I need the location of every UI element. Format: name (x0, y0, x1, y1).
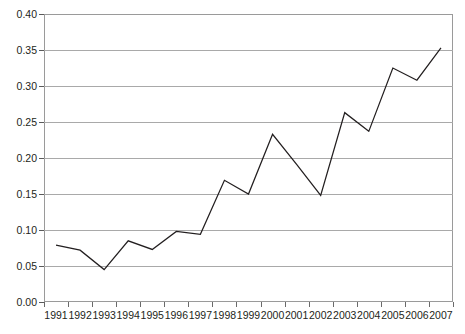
x-tick-label: 1993 (92, 310, 116, 321)
y-tick-label: 0.30 (0, 81, 37, 91)
x-tick-label: 2002 (309, 310, 333, 321)
y-tick-mark (39, 158, 44, 159)
x-tick-mark (164, 302, 165, 307)
y-tick-label: 0.00 (0, 297, 37, 307)
y-tick-mark (39, 50, 44, 51)
y-tick-label: 0.10 (0, 225, 37, 235)
data-series-layer (44, 14, 453, 302)
x-tick-label: 1992 (68, 310, 92, 321)
x-tick-label: 1991 (44, 310, 68, 321)
x-tick-mark (212, 302, 213, 307)
x-tick-mark (453, 302, 454, 307)
x-tick-mark (285, 302, 286, 307)
x-tick-mark (140, 302, 141, 307)
x-tick-label: 2001 (285, 310, 309, 321)
y-tick-label: 0.15 (0, 189, 37, 199)
x-tick-label: 2007 (429, 310, 453, 321)
y-tick-mark (39, 266, 44, 267)
x-tick-label: 2005 (381, 310, 405, 321)
x-tick-mark (333, 302, 334, 307)
line-chart: 0.000.050.100.150.200.250.300.350.40 199… (0, 0, 465, 334)
y-tick-mark (39, 86, 44, 87)
x-tick-mark (309, 302, 310, 307)
x-tick-mark (116, 302, 117, 307)
x-tick-label: 1994 (116, 310, 140, 321)
x-tick-mark (429, 302, 430, 307)
plot-area (44, 14, 453, 302)
x-tick-label: 2004 (357, 310, 381, 321)
x-tick-mark (188, 302, 189, 307)
x-tick-label: 1995 (140, 310, 164, 321)
x-tick-mark (405, 302, 406, 307)
y-tick-label: 0.20 (0, 153, 37, 163)
x-tick-mark (68, 302, 69, 307)
x-tick-label: 1996 (164, 310, 188, 321)
x-tick-mark (381, 302, 382, 307)
x-tick-mark (236, 302, 237, 307)
x-tick-label: 1999 (236, 310, 260, 321)
x-tick-mark (357, 302, 358, 307)
x-tick-mark (44, 302, 45, 307)
x-tick-label: 2003 (333, 310, 357, 321)
y-tick-label: 0.05 (0, 261, 37, 271)
x-tick-label: 1997 (188, 310, 212, 321)
x-tick-label: 1998 (212, 310, 236, 321)
y-tick-mark (39, 194, 44, 195)
y-tick-mark (39, 230, 44, 231)
y-tick-label: 0.25 (0, 117, 37, 127)
y-tick-label: 0.40 (0, 9, 37, 19)
x-tick-label: 2000 (261, 310, 285, 321)
y-tick-label: 0.35 (0, 45, 37, 55)
y-tick-mark (39, 122, 44, 123)
x-tick-mark (261, 302, 262, 307)
x-tick-mark (92, 302, 93, 307)
series-line-1 (56, 48, 441, 270)
y-tick-mark (39, 14, 44, 15)
x-tick-label: 2006 (405, 310, 429, 321)
